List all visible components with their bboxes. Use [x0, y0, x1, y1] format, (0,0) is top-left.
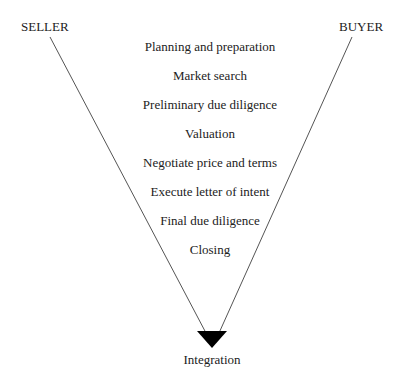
- stage-closing: Closing: [0, 242, 400, 258]
- stage-planning: Planning and preparation: [0, 39, 400, 55]
- stage-letter-of-intent: Execute letter of intent: [0, 184, 400, 200]
- stage-preliminary-due-diligence: Preliminary due diligence: [0, 97, 400, 113]
- stage-final-due-diligence: Final due diligence: [0, 213, 400, 229]
- seller-label: SELLER: [21, 19, 69, 35]
- m-and-a-process-diagram: SELLER BUYER Planning and preparation Ma…: [0, 0, 400, 379]
- integration-label: Integration: [2, 352, 400, 368]
- convergence-arrow-icon: [197, 331, 227, 348]
- buyer-label: BUYER: [339, 19, 383, 35]
- stage-valuation: Valuation: [0, 126, 400, 142]
- stage-market-search: Market search: [0, 68, 400, 84]
- stage-negotiate: Negotiate price and terms: [0, 155, 400, 171]
